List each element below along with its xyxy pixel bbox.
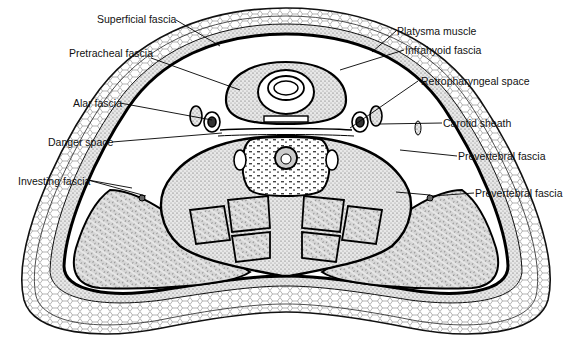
label-platysma-muscle: Platysma muscle	[397, 25, 476, 37]
label-prevertebral-fascia-lower: Prevertebral fascia	[475, 187, 563, 199]
label-carotid-sheath: Carotid sheath	[443, 117, 511, 129]
label-retropharyngeal-space: Retropharyngeal space	[421, 75, 530, 87]
label-alar-fascia: Alar fascia	[73, 97, 122, 109]
neck-cross-section-diagram: Superficial fascia Pretracheal fascia Al…	[0, 0, 572, 344]
esophagus	[264, 116, 308, 122]
label-investing-fascia: Investing fascia	[18, 175, 90, 187]
label-pretracheal-fascia: Pretracheal fascia	[69, 47, 153, 59]
label-danger-space: Danger space	[48, 136, 113, 148]
label-prevertebral-fascia-upper: Prevertebral fascia	[458, 150, 546, 162]
label-infrahyoid-fascia: Infrahyoid fascia	[405, 44, 481, 56]
label-superficial-fascia: Superficial fascia	[97, 13, 176, 25]
